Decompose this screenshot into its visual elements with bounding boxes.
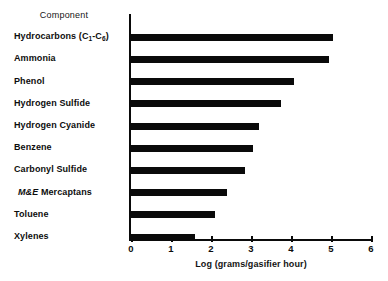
- bar: [131, 123, 259, 130]
- x-axis-tick: [251, 236, 253, 242]
- x-axis-tick-label: 4: [282, 243, 300, 254]
- x-axis-tick-label: 3: [242, 243, 260, 254]
- x-axis-tick: [331, 236, 333, 242]
- x-axis-tick: [211, 236, 213, 242]
- bar: [131, 56, 329, 63]
- bar: [131, 189, 227, 196]
- bar: [131, 167, 245, 174]
- x-axis-tick: [131, 236, 133, 242]
- x-axis-tick-label: 6: [362, 243, 380, 254]
- x-axis-tick-label: 0: [122, 243, 140, 254]
- bar: [131, 211, 215, 218]
- x-axis-tick: [371, 236, 373, 242]
- bar: [131, 34, 333, 41]
- x-axis-tick-label: 1: [162, 243, 180, 254]
- x-axis-tick: [171, 236, 173, 242]
- plot-area: 0123456 Log (grams/gasifier hour): [0, 0, 388, 281]
- x-axis-tick-label: 2: [202, 243, 220, 254]
- x-axis-title: Log (grams/gasifier hour): [129, 259, 373, 269]
- x-axis-tick-label: 5: [322, 243, 340, 254]
- x-axis-tick: [291, 236, 293, 242]
- bar: [131, 234, 195, 241]
- bar: [131, 78, 294, 85]
- bar: [131, 100, 281, 107]
- bar: [131, 145, 253, 152]
- bar-chart: Component Hydrocarbons (C1-C6) Ammonia P…: [0, 0, 388, 281]
